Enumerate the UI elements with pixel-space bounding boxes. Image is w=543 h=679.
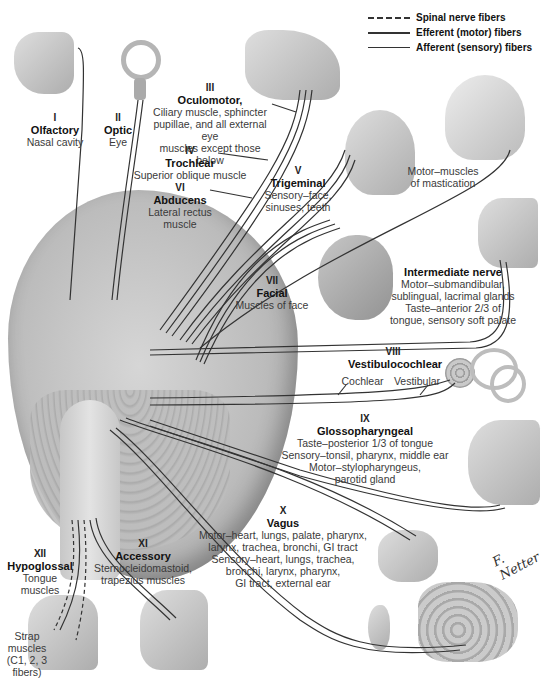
nerve-description: Superior oblique muscle — [130, 169, 250, 181]
nerve-label-vestibulocochlear: VIII Vestibulocochlear — [348, 346, 438, 370]
nerve-description: parotid gland — [280, 473, 450, 485]
nerve-name: Trigeminal — [258, 177, 338, 189]
nerve-description: Taste–anterior 2/3 of — [388, 302, 518, 314]
nerve-name: Accessory — [88, 550, 198, 562]
nerve-label-vagus: X Vagus Motor–heart, lungs, palate, phar… — [198, 505, 368, 589]
nerve-label-trochlear: IV Trochlear Superior oblique muscle — [130, 145, 250, 181]
nerve-number: I — [20, 112, 90, 124]
nerve-number: II — [98, 112, 138, 124]
nerve-label-glossopharyngeal: IX Glossopharyngeal Taste–posterior 1/3 … — [280, 413, 450, 485]
nerve-label-olfactory: I Olfactory Nasal cavity — [20, 112, 90, 148]
nerve-description: Sensory–heart, lungs, trachea, — [198, 553, 368, 565]
nerve-description: trapezius muscles — [88, 574, 198, 586]
nerve-name: Olfactory — [20, 124, 90, 136]
nerve-number: IV — [130, 145, 250, 157]
nerve-description: muscles — [6, 584, 74, 596]
nerve-description: Ciliary muscle, sphincter — [145, 106, 275, 118]
nerve-description: Muscles of face — [232, 299, 312, 311]
nerve-name: Oculomotor, — [145, 94, 275, 106]
nerve-name: Vagus — [198, 517, 368, 529]
nerve-description: muscle — [140, 218, 220, 230]
nerve-label-facial: VII Facial Muscles of face — [232, 275, 312, 311]
nerve-description: pupillae, and all external eye — [145, 118, 275, 142]
nerve-description: Nasal cavity — [20, 136, 90, 148]
nerve-description: Lateral rectus — [140, 206, 220, 218]
nerve-description: Sternocleidomastoid, — [88, 562, 198, 574]
nerve-description: of mastication — [403, 177, 483, 189]
cochlear-branch-label: Cochlear — [340, 375, 385, 387]
nerve-description: Motor–stylopharyngeus, — [280, 461, 450, 473]
nerve-number: VIII — [348, 346, 438, 358]
nerve-number: V — [258, 165, 338, 177]
nerve-name: Trochlear — [130, 157, 250, 169]
nerve-number: VI — [140, 182, 220, 194]
nerve-name: Vestibulocochlear — [348, 358, 438, 370]
nerve-label-optic: II Optic Eye — [98, 112, 138, 148]
nerve-number: III — [145, 82, 275, 94]
nerve-name: Abducens — [140, 194, 220, 206]
nerve-number: X — [198, 505, 368, 517]
nerve-description: bronchi, larynx, pharynx, — [198, 565, 368, 577]
nerve-label-accessory: XI Accessory Sternocleidomastoid, trapez… — [88, 538, 198, 586]
nerve-label-abducens: VI Abducens Lateral rectus muscle — [140, 182, 220, 230]
nerve-name: Intermediate nerve — [388, 266, 518, 278]
nerve-name: Optic — [98, 124, 138, 136]
nerve-description: sublingual, lacrimal glands — [388, 290, 518, 302]
nerve-description: Motor–heart, lungs, palate, pharynx, — [198, 529, 368, 541]
vestibular-branch-label: Vestibular — [392, 375, 442, 387]
nerve-description: Motor–submandibular, — [388, 278, 518, 290]
strap-muscles-label: Strap muscles (C1, 2, 3 fibers) — [2, 630, 52, 678]
nerve-description: tongue, sensory soft palate — [388, 314, 518, 326]
nerve-name: Hypoglossal — [6, 560, 74, 572]
nerve-description: Motor–muscles — [403, 165, 483, 177]
nerve-description: GI tract, external ear — [198, 577, 368, 589]
nerve-number: VII — [232, 275, 312, 287]
nerve-number: XII — [6, 548, 74, 560]
nerve-description: Sensory–tonsil, pharynx, middle ear — [280, 449, 450, 461]
nerve-number: XI — [88, 538, 198, 550]
nerve-description: sinuses, teeth — [258, 201, 338, 213]
nerve-name: Facial — [232, 287, 312, 299]
nerve-label-hypoglossal: XII Hypoglossal Tongue muscles — [6, 548, 74, 596]
nerve-number: IX — [280, 413, 450, 425]
nerve-label-trigeminal: V Trigeminal Sensory–face, sinuses, teet… — [258, 165, 338, 213]
nerve-description: Taste–posterior 1/3 of tongue — [280, 437, 450, 449]
nerve-description: larynx, trachea, bronchi, GI tract — [198, 541, 368, 553]
intermediate-nerve-label: Intermediate nerve Motor–submandibular, … — [388, 266, 518, 326]
nerve-description: Tongue — [6, 572, 74, 584]
trigeminal-motor-note: Motor–muscles of mastication — [403, 165, 483, 189]
nerve-description: Sensory–face, — [258, 189, 338, 201]
nerve-name: Glossopharyngeal — [280, 425, 450, 437]
